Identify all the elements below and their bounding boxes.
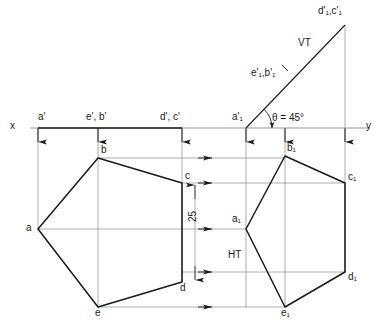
label-d1-c1-prime: d'₁,c'₁: [318, 6, 342, 16]
horizontal-projector-group: [38, 158, 345, 307]
vertex-label-e: e: [95, 308, 101, 318]
label-a1-prime: a'₁: [232, 112, 243, 122]
horizontal-trace-label: HT: [228, 250, 241, 260]
vertex-label-b1: b₁: [287, 143, 296, 153]
drawing-canvas: x y a'e', b'd', c'a'₁ d'₁,c'₁e'₁,b'₁VTθ …: [0, 0, 378, 328]
vertex-label-a1: a₁: [232, 214, 241, 224]
pentagon-left-outline: [38, 158, 182, 307]
vt-intersection-tick: [282, 65, 288, 71]
vertex-label-a: a: [26, 223, 32, 233]
vertex-label-c1: c₁: [348, 172, 356, 182]
dimension-25-label: 25: [188, 211, 198, 222]
label-angle-label: θ = 45°: [272, 113, 304, 123]
label-a-prime: a': [38, 112, 45, 122]
angle-arc: [264, 110, 272, 128]
vertical-projector-group: [38, 25, 345, 307]
vertex-label-e1: e₁: [281, 308, 290, 318]
label-d-c-prime: d', c': [160, 112, 180, 122]
technical-drawing-svg: [0, 0, 378, 328]
vertex-label-d1: d₁: [348, 272, 357, 282]
vertex-label-d: d: [180, 283, 186, 293]
label-vt-label: VT: [298, 38, 311, 48]
vertex-label-c: c: [185, 171, 190, 181]
label-e1-b1-prime: e'₁,b'₁: [251, 68, 275, 78]
xy-drop-arrow-group: [38, 128, 345, 142]
vertex-label-b: b: [101, 145, 107, 155]
label-e-b-prime: e', b': [86, 112, 107, 122]
pentagon-right-outline: [246, 156, 345, 307]
axis-label-y: y: [366, 121, 371, 131]
axis-label-x: x: [10, 121, 15, 131]
